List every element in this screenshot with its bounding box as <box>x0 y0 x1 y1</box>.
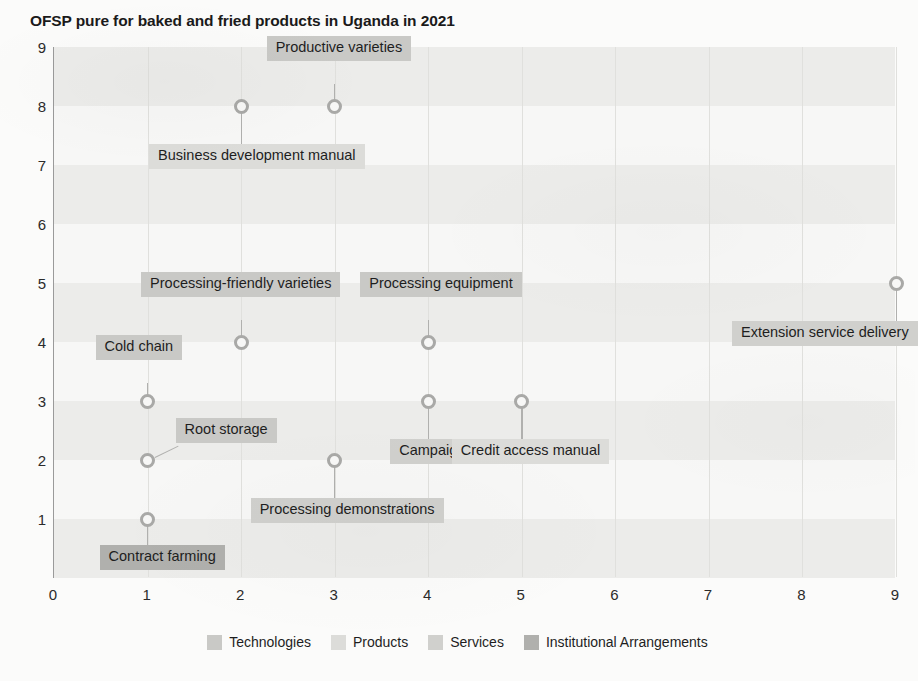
plot-area: Contract farmingRoot storageCold chainPr… <box>53 47 895 578</box>
label-leader-line <box>428 320 429 336</box>
legend-item-products[interactable]: Products <box>331 634 408 650</box>
data-point-marker[interactable] <box>327 99 342 114</box>
y-axis-tick-label: 1 <box>20 511 46 528</box>
grid-line-vertical <box>148 47 149 577</box>
legend-swatch-icon <box>428 635 443 650</box>
legend-swatch-icon <box>331 635 346 650</box>
grid-line-vertical <box>522 47 523 577</box>
data-point-label[interactable]: Credit access manual <box>452 439 609 464</box>
legend-swatch-icon <box>524 635 539 650</box>
grid-line-vertical <box>802 47 803 577</box>
label-leader-line <box>521 407 522 439</box>
data-point-marker[interactable] <box>421 335 436 350</box>
data-point-label[interactable]: Business development manual <box>149 144 364 169</box>
label-leader-line <box>241 320 242 336</box>
grid-band <box>54 165 895 224</box>
data-point-label[interactable]: Extension service delivery <box>732 321 918 346</box>
x-axis-tick-label: 1 <box>132 586 162 603</box>
label-leader-line <box>241 112 242 144</box>
data-point-marker[interactable] <box>140 453 155 468</box>
legend-item-services[interactable]: Services <box>428 634 504 650</box>
x-axis-tick-label: 8 <box>786 586 816 603</box>
legend-label: Institutional Arrangements <box>546 634 708 650</box>
y-axis-tick-label: 2 <box>20 452 46 469</box>
data-point-label[interactable]: Cold chain <box>96 335 183 360</box>
y-axis-tick-label: 5 <box>20 275 46 292</box>
x-axis-tick-label: 0 <box>38 586 68 603</box>
x-axis-tick-label: 7 <box>693 586 723 603</box>
legend-item-institutional-arrangements[interactable]: Institutional Arrangements <box>524 634 708 650</box>
data-point-marker[interactable] <box>140 394 155 409</box>
data-point-marker[interactable] <box>889 276 904 291</box>
data-point-label[interactable]: Processing equipment <box>360 272 521 297</box>
chart-legend: TechnologiesProductsServicesInstitutiona… <box>0 634 915 650</box>
x-axis-tick-label: 9 <box>880 586 910 603</box>
y-axis-tick-label: 8 <box>20 98 46 115</box>
data-point-marker[interactable] <box>327 453 342 468</box>
legend-label: Services <box>450 634 504 650</box>
grid-line-vertical <box>615 47 616 577</box>
legend-item-technologies[interactable]: Technologies <box>207 634 311 650</box>
grid-band <box>54 47 895 106</box>
data-point-marker[interactable] <box>234 335 249 350</box>
x-axis-tick-label: 3 <box>319 586 349 603</box>
data-point-label[interactable]: Root storage <box>176 418 277 443</box>
y-axis: 123456789 <box>16 47 46 578</box>
label-leader-line <box>334 84 335 100</box>
data-point-marker[interactable] <box>514 394 529 409</box>
data-point-marker[interactable] <box>140 512 155 527</box>
chart-title: OFSP pure for baked and fried products i… <box>30 12 455 30</box>
x-axis-tick-label: 2 <box>225 586 255 603</box>
x-axis-tick-label: 5 <box>506 586 536 603</box>
y-axis-tick-label: 7 <box>20 157 46 174</box>
y-axis-tick-label: 3 <box>20 393 46 410</box>
legend-swatch-icon <box>207 635 222 650</box>
legend-label: Products <box>353 634 408 650</box>
x-axis-tick-label: 4 <box>412 586 442 603</box>
data-point-label[interactable]: Contract farming <box>100 545 225 570</box>
data-point-label[interactable]: Productive varieties <box>267 36 412 61</box>
data-point-marker[interactable] <box>234 99 249 114</box>
x-axis-tick-label: 6 <box>599 586 629 603</box>
y-axis-tick-label: 6 <box>20 216 46 233</box>
label-leader-line <box>334 466 335 498</box>
data-point-marker[interactable] <box>421 394 436 409</box>
x-axis: 0123456789 <box>53 586 895 608</box>
label-leader-line <box>896 289 897 321</box>
y-axis-tick-label: 9 <box>20 39 46 56</box>
y-axis-tick-label: 4 <box>20 334 46 351</box>
label-leader-line <box>147 525 148 545</box>
label-leader-line <box>428 407 429 439</box>
data-point-label[interactable]: Processing-friendly varieties <box>141 272 340 297</box>
legend-label: Technologies <box>229 634 311 650</box>
data-point-label[interactable]: Processing demonstrations <box>251 498 444 523</box>
grid-line-vertical <box>709 47 710 577</box>
